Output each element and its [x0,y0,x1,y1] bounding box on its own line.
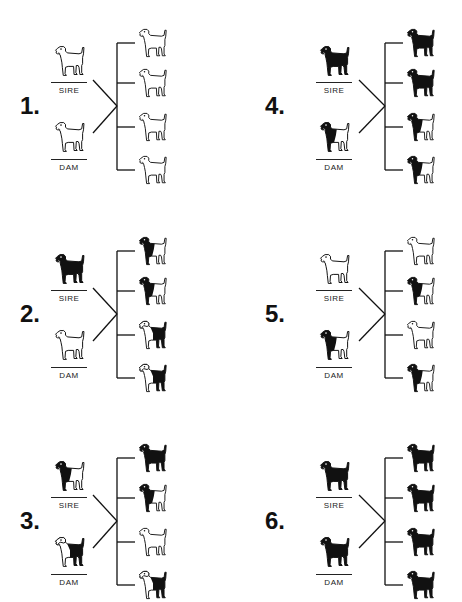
offspring-dog-icon [404,480,436,514]
offspring-dog-icon [404,65,436,99]
offspring-dog-icon [404,317,436,351]
offspring-dog-icon [136,317,168,351]
cross-panel-3: 3. SIRE DAM [0,403,231,602]
offspring-dog-icon [404,273,436,307]
offspring-dog-icon [136,273,168,307]
pedigree-bracket [0,0,231,200]
offspring-dog-icon [136,567,168,601]
cross-panel-4: 4. SIRE DAM [231,0,462,200]
offspring-dog-icon [136,25,168,59]
pedigree-bracket [0,403,231,602]
offspring-dog-icon [404,440,436,474]
offspring-dog-icon [404,152,436,186]
offspring-dog-icon [136,65,168,99]
offspring-dog-icon [136,360,168,394]
offspring-dog-icon [404,25,436,59]
cross-panel-5: 5. SIRE DAM [231,200,462,400]
offspring-dog-icon [404,360,436,394]
pedigree-bracket [0,200,231,400]
cross-panel-6: 6. SIRE DAM [231,403,462,602]
offspring-dog-icon [404,567,436,601]
offspring-dog-icon [404,233,436,267]
offspring-dog-icon [136,109,168,143]
cross-panel-1: 1. SIRE DAM [0,0,231,200]
offspring-dog-icon [136,480,168,514]
offspring-dog-icon [136,152,168,186]
offspring-dog-icon [404,524,436,558]
offspring-dog-icon [136,440,168,474]
offspring-dog-icon [404,109,436,143]
cross-panel-2: 2. SIRE DAM [0,200,231,400]
offspring-dog-icon [136,524,168,558]
offspring-dog-icon [136,233,168,267]
